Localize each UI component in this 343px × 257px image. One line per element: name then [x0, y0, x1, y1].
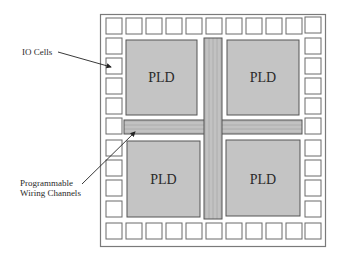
io-cell [305, 118, 321, 134]
io-cell [146, 18, 162, 34]
wiring-channel-vertical [204, 38, 222, 219]
io-cell [106, 160, 122, 176]
io-cell [305, 201, 321, 217]
io-cell [305, 98, 321, 114]
io-cells-left-column [106, 38, 122, 217]
io-cell [226, 223, 242, 239]
io-cell [305, 223, 321, 239]
wiring-channels-label-line1: Programmable [20, 178, 73, 188]
io-cell [206, 18, 222, 34]
io-cells-bottom-row [106, 223, 321, 239]
io-cell [106, 140, 122, 156]
io-cell [186, 18, 202, 34]
io-cell [166, 223, 182, 239]
io-cells-label: IO Cells [22, 47, 52, 57]
io-cell [106, 180, 122, 196]
io-cell [106, 98, 122, 114]
io-cell [126, 223, 142, 239]
io-cell [305, 17, 321, 33]
io-cell [186, 223, 202, 239]
io-cell [106, 201, 122, 217]
io-cell [305, 180, 321, 196]
io-cell [305, 160, 321, 176]
io-cell [266, 223, 282, 239]
pld-text: PLD [126, 70, 197, 86]
io-cell [106, 118, 122, 134]
io-cell [286, 18, 302, 34]
io-cell [126, 18, 142, 34]
io-cell [305, 58, 321, 74]
io-cell [106, 18, 122, 34]
io-cell [305, 140, 321, 156]
pld-text: PLD [226, 172, 300, 188]
fpga-architecture-diagram [0, 0, 343, 257]
io-cell [106, 38, 122, 54]
io-cell [286, 223, 302, 239]
wiring-channels-label-line2: Wiring Channels [20, 188, 81, 198]
pld-text: PLD [227, 70, 299, 86]
io-cell [106, 78, 122, 94]
io-cell [305, 78, 321, 94]
io-cell [106, 223, 122, 239]
io-cell [246, 18, 262, 34]
io-cell [166, 18, 182, 34]
io-cell [226, 18, 242, 34]
pld-text: PLD [127, 172, 200, 188]
io-cells-right-column [305, 38, 321, 217]
io-cell [146, 223, 162, 239]
io-cell [266, 18, 282, 34]
io-cells-top-row [106, 17, 321, 34]
io-cell [246, 223, 262, 239]
io-cell [305, 38, 321, 54]
io-cell [206, 223, 222, 239]
